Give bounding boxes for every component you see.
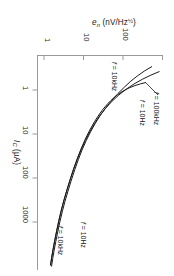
- left-axis-ticks: [33, 90, 38, 222]
- annotation-10khz-top: f = 10kHz: [110, 62, 117, 91]
- x-tick-label-10: 10: [82, 33, 90, 41]
- annotation-10hz-bottom-value: = 10Hz: [80, 224, 87, 248]
- annotation-10hz-top: f = 10Hz: [138, 100, 145, 126]
- x-tick-label-100: 100: [121, 28, 129, 41]
- x-axis-title-close: ): [133, 18, 136, 27]
- y-axis-title-units: (µA): [12, 147, 21, 165]
- annotation-100khz-value: = 100kHz: [153, 94, 160, 125]
- x-axis-title-units: (nV/Hz: [100, 18, 128, 27]
- x-axis-title: en (nV/Hz½): [92, 18, 136, 28]
- y-tick-label-10: 10: [21, 126, 29, 134]
- annotation-100khz: f = 100kHz: [152, 92, 159, 125]
- y-tick-label-1000: 1000: [21, 206, 29, 223]
- top-axis-ticks: [44, 56, 163, 61]
- y-axis-title: IC (µA): [11, 140, 20, 165]
- figure-root: en (nV/Hz½) 1 10 100 IC (µA) 1 10 100 10…: [0, 0, 174, 276]
- annotation-10khz-bottom: f = 10kHz: [56, 226, 63, 255]
- annotation-10khz-bottom-value: = 10kHz: [57, 228, 64, 255]
- x-tick-label-1: 1: [43, 38, 51, 42]
- curve-100khz: [51, 83, 147, 266]
- y-tick-label-100: 100: [21, 166, 29, 179]
- curve-10hz: [52, 67, 153, 267]
- y-tick-label-1: 1: [21, 86, 29, 90]
- curve-group: [51, 67, 160, 267]
- annotation-10khz-top-value: = 10kHz: [111, 64, 118, 91]
- annotation-10hz-bottom: f = 10Hz: [79, 222, 86, 248]
- annotation-10hz-top-value: = 10Hz: [139, 102, 146, 126]
